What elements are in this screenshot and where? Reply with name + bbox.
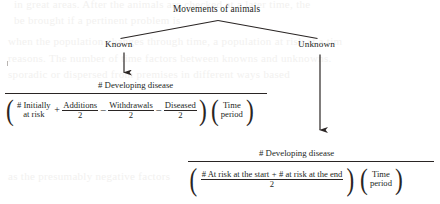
known-operator-minus-2: –	[155, 105, 163, 115]
known-term2-denominator: 2	[62, 111, 98, 120]
figure-canvas: in great areas. After the animals are ch…	[0, 0, 440, 204]
known-term3-denominator: 2	[108, 111, 154, 120]
known-term2-numerator: Additions	[62, 101, 98, 110]
unknown-time-paren-close: )	[395, 164, 403, 194]
unknown-formula-numerator: # Developing disease	[259, 148, 334, 158]
known-term4-numerator: Diseased	[164, 101, 197, 110]
unknown-time-period: Time period	[370, 170, 392, 188]
known-term-diseased: Diseased 2	[164, 101, 197, 120]
known-term-initially-at-risk: # Initially at risk	[17, 101, 51, 119]
unknown-formula: # Developing disease ( # At risk at the …	[185, 148, 440, 198]
unknown-time-paren-open: (	[360, 164, 368, 194]
unknown-risk-end: # at risk at the end	[279, 169, 342, 179]
unknown-paren-open: (	[189, 163, 197, 195]
known-time-line2: period	[221, 110, 243, 119]
unknown-time-line2: period	[370, 179, 392, 188]
unknown-risk-start: # At risk at the start	[202, 169, 270, 179]
known-term3-numerator: Withdrawals	[108, 101, 154, 110]
known-paren-close: )	[199, 95, 207, 125]
unknown-fraction-numerator: # At risk at the start+# at risk at the …	[201, 170, 344, 179]
known-term1-line2: at risk	[17, 110, 51, 119]
known-formula: # Developing disease ( # Initially at ri…	[0, 80, 275, 125]
known-operator-plus: +	[53, 105, 62, 115]
known-term-additions: Additions 2	[62, 101, 98, 120]
unknown-fraction-denominator: 2	[201, 180, 344, 189]
diagram-title: Movements of animals	[173, 4, 260, 14]
node-unknown: Unknown	[298, 39, 335, 49]
unknown-average-fraction: # At risk at the start+# at risk at the …	[201, 170, 344, 189]
known-paren-open: (	[6, 95, 14, 125]
known-time-paren-close: )	[246, 95, 254, 125]
unknown-paren-close: )	[347, 163, 355, 195]
known-time-period: Time period	[221, 101, 243, 119]
branch-line-known	[121, 21, 219, 39]
node-known: Known	[105, 39, 133, 49]
known-formula-fraction-bar	[5, 93, 267, 94]
known-term-withdrawals: Withdrawals 2	[108, 101, 154, 120]
unknown-operator-plus: +	[269, 169, 279, 179]
known-formula-numerator: # Developing disease	[98, 80, 173, 90]
known-time-paren-open: (	[211, 95, 219, 125]
known-term4-denominator: 2	[164, 111, 197, 120]
branch-line-unknown	[218, 21, 318, 39]
known-operator-minus-1: –	[99, 105, 107, 115]
